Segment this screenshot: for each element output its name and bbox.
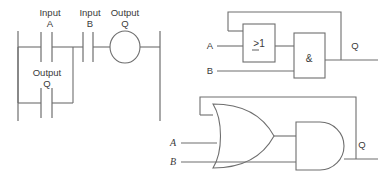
ladder-label-seal-in-line1: Output bbox=[33, 67, 62, 78]
ladder-contact-input-b bbox=[83, 32, 93, 62]
iec-or-gate-label: >1 bbox=[253, 38, 265, 49]
ansi-output-q-label: Q bbox=[358, 139, 365, 150]
iec-and-gate-label: & bbox=[306, 53, 313, 64]
iec-input-a-label: A bbox=[207, 40, 214, 51]
ladder-label-seal-in-line2: Q bbox=[43, 78, 50, 89]
iec-output-q-label: Q bbox=[351, 40, 358, 51]
logic-diagram-figure: Input A Input B Output Q bbox=[0, 0, 386, 179]
ladder-coil-output-q bbox=[110, 31, 140, 63]
ansi-symbol-logic-diagram: A B Q bbox=[169, 97, 378, 170]
ansi-input-a-label: A bbox=[169, 137, 177, 148]
ansi-input-b-label: B bbox=[170, 156, 176, 167]
ladder-label-input-a-line1: Input bbox=[39, 7, 60, 18]
ladder-contact-input-a bbox=[41, 32, 52, 62]
ladder-label-input-a-line2: A bbox=[47, 18, 54, 29]
iec-symbol-logic-diagram: >1 & A B Q bbox=[207, 12, 378, 78]
iec-input-b-label: B bbox=[207, 65, 213, 76]
ladder-label-input-b-line2: B bbox=[87, 18, 93, 29]
ladder-label-input-b-line1: Input bbox=[79, 7, 100, 18]
ansi-or-gate-shape bbox=[213, 104, 274, 168]
ladder-logic-diagram: Input A Input B Output Q bbox=[18, 7, 160, 121]
ladder-contact-output-q bbox=[41, 88, 52, 118]
ansi-and-gate-shape bbox=[296, 122, 344, 170]
ladder-label-output-q-line1: Output bbox=[111, 7, 140, 18]
ladder-label-output-q-line2: Q bbox=[121, 18, 128, 29]
